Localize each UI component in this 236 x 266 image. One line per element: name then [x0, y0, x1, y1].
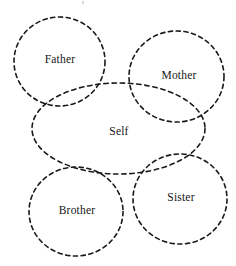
- label-brother: Brother: [59, 204, 96, 216]
- label-sister: Sister: [167, 191, 194, 203]
- label-father: Father: [45, 53, 76, 65]
- venn-diagram-canvas: Father Mother Self Brother Sister: [0, 0, 236, 266]
- label-mother: Mother: [161, 69, 196, 81]
- label-self: Self: [109, 125, 128, 137]
- family-venn-diagram: Father Mother Self Brother Sister: [0, 0, 236, 266]
